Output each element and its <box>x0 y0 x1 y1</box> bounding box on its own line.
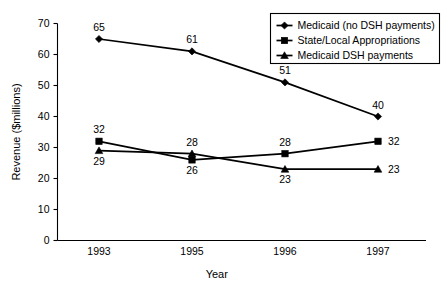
data-point-label: 28 <box>186 136 198 148</box>
data-point-marker <box>282 151 288 157</box>
series-line <box>99 151 378 170</box>
x-axis-title: Year <box>206 268 229 280</box>
data-point-label: 29 <box>93 155 105 167</box>
legend-label: State/Local Appropriations <box>298 34 421 46</box>
series-3 <box>95 147 382 172</box>
legend-label: Medicaid (no DSH payments) <box>298 19 435 31</box>
chart-legend: Medicaid (no DSH payments)State/Local Ap… <box>271 14 440 64</box>
data-point-label: 65 <box>93 21 105 33</box>
x-axis-tick-labels: 1993199519961997 <box>87 245 390 257</box>
data-point-label: 32 <box>93 123 105 135</box>
data-point-label: 28 <box>279 136 291 148</box>
y-tick-label: 70 <box>38 17 50 29</box>
y-tick-label: 60 <box>38 48 50 60</box>
y-tick-label: 20 <box>38 172 50 184</box>
series-line <box>99 141 378 160</box>
data-point-label: 23 <box>279 173 291 185</box>
y-tick-label: 30 <box>38 141 50 153</box>
data-point-marker <box>95 35 102 42</box>
x-tick-label: 1993 <box>87 245 111 257</box>
legend-marker-icon <box>281 37 287 43</box>
data-point-marker <box>374 113 381 120</box>
data-point-marker <box>188 48 195 55</box>
series-2 <box>96 138 381 163</box>
y-tick-label: 10 <box>38 203 50 215</box>
y-axis-ticks <box>54 24 58 241</box>
line-chart: 010203040506070 1993199519961997 Revenue… <box>0 0 443 284</box>
data-point-label: 61 <box>186 33 198 45</box>
x-tick-label: 1995 <box>180 245 204 257</box>
data-point-label: 26 <box>186 164 198 176</box>
legend-item-3[interactable]: Medicaid DSH payments <box>277 49 414 61</box>
x-tick-label: 1996 <box>273 245 297 257</box>
y-tick-label: 0 <box>44 234 50 246</box>
y-axis-title: Revenue ($millions) <box>10 83 22 180</box>
legend-item-1[interactable]: Medicaid (no DSH payments) <box>277 19 435 31</box>
y-axis-tick-labels: 010203040506070 <box>38 17 50 246</box>
data-point-marker <box>281 79 288 86</box>
x-tick-label: 1997 <box>366 245 390 257</box>
data-point-marker <box>189 157 195 163</box>
legend-label: Medicaid DSH payments <box>298 49 414 61</box>
data-point-label: 32 <box>388 135 400 147</box>
data-point-marker <box>96 138 102 144</box>
y-tick-label: 50 <box>38 79 50 91</box>
data-point-label: 51 <box>279 64 291 76</box>
y-tick-label: 40 <box>38 110 50 122</box>
chart-canvas: 010203040506070 1993199519961997 Revenue… <box>0 0 443 284</box>
legend-item-2[interactable]: State/Local Appropriations <box>277 34 421 46</box>
data-point-marker <box>375 138 381 144</box>
data-point-label: 23 <box>388 163 400 175</box>
data-point-label: 40 <box>372 99 384 111</box>
